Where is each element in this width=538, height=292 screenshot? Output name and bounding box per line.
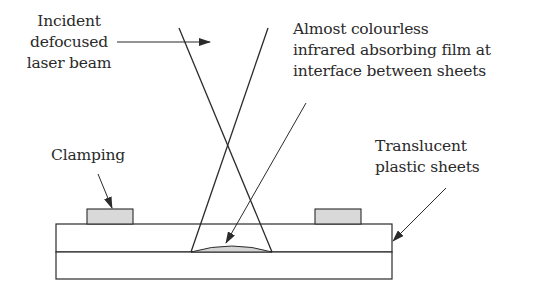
film-arrow: [226, 103, 306, 243]
laser-beam-left-edge: [179, 28, 272, 252]
film-line-1: Almost colourless: [293, 19, 491, 40]
clamp-left: [87, 209, 133, 224]
lower-sheet: [56, 252, 392, 279]
sheets-label: Translucent plastic sheets: [375, 136, 480, 178]
film-line-2: infrared absorbing film at: [293, 40, 491, 61]
film-line-3: interface between sheets: [293, 61, 491, 82]
incident-line-2: defocused: [18, 32, 120, 53]
clamping-arrow: [98, 174, 112, 208]
incident-line-1: Incident: [18, 11, 120, 32]
incident-line-3: laser beam: [18, 53, 120, 74]
sheets-line-2: plastic sheets: [375, 157, 480, 178]
clamping-label: Clamping: [51, 145, 125, 166]
film-label: Almost colourless infrared absorbing fil…: [293, 19, 491, 82]
laser-welding-diagram: Incident defocused laser beam Almost col…: [0, 0, 538, 292]
clamping-text: Clamping: [51, 145, 125, 166]
incident-beam-label: Incident defocused laser beam: [18, 11, 120, 74]
laser-beam-right-edge: [191, 28, 268, 252]
clamp-right: [315, 209, 361, 224]
sheets-line-1: Translucent: [375, 136, 480, 157]
sheets-arrow: [393, 188, 446, 241]
